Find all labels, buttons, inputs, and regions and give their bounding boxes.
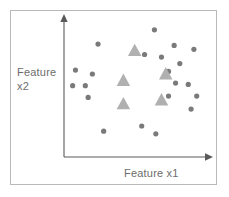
y-axis-arrow-head (60, 14, 67, 22)
triangle-marker (155, 93, 169, 105)
triangle-marker (117, 74, 130, 86)
y-axis-label: Featurex2 (17, 66, 56, 93)
circle-marker (73, 68, 78, 73)
circle-marker (177, 61, 182, 66)
circle-marker (173, 81, 178, 86)
axes-group (60, 14, 213, 161)
circle-marker (70, 83, 75, 88)
circle-marker (142, 52, 147, 57)
y-axis-label-line2: x2 (17, 80, 29, 92)
circle-marker (152, 27, 157, 32)
scatter-plot (0, 0, 229, 197)
circle-marker (186, 82, 191, 87)
circle-marker (159, 55, 164, 60)
circle-marker (188, 107, 193, 112)
data-markers-group (70, 27, 199, 136)
circle-marker (191, 47, 196, 52)
triangle-marker (117, 97, 130, 109)
triangle-marker (128, 44, 141, 56)
figure-container: Featurex2 Feature x1 (0, 0, 229, 197)
circle-marker (101, 129, 106, 134)
circle-marker (139, 123, 144, 128)
circle-marker (166, 94, 171, 99)
triangle-marker (159, 67, 173, 79)
circle-marker (95, 42, 100, 47)
x-axis-label: Feature x1 (124, 167, 179, 181)
circle-marker (194, 94, 199, 99)
circle-marker (86, 95, 91, 100)
circle-marker (83, 83, 88, 88)
circle-marker (172, 43, 177, 48)
x-axis-arrow-head (205, 153, 213, 160)
circle-marker (153, 131, 158, 136)
y-axis-label-line1: Feature (17, 66, 56, 78)
circle-marker (90, 71, 95, 76)
